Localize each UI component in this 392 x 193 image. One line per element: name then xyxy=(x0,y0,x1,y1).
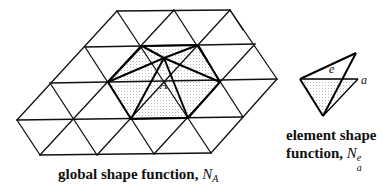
global-caption-text: global shape function, xyxy=(58,166,202,182)
element-caption-symbol: N xyxy=(347,145,357,161)
node-label-A: A xyxy=(160,78,167,93)
element-caption-line2: function, xyxy=(286,145,347,161)
global-caption-subscript: A xyxy=(212,173,218,184)
element-caption-subscript: a xyxy=(357,160,362,176)
element-shape-function-caption: element shape function, Nea xyxy=(286,127,376,161)
node-label-a: a xyxy=(361,73,367,88)
element-label-e: e xyxy=(329,62,334,77)
global-shape-function-caption: global shape function, NA xyxy=(58,166,218,187)
element-caption-line1: element shape xyxy=(286,127,376,143)
element-caption-line2-wrap: function, Nea xyxy=(286,145,376,161)
diagram-canvas xyxy=(0,0,392,193)
global-caption-symbol: N xyxy=(202,166,212,182)
